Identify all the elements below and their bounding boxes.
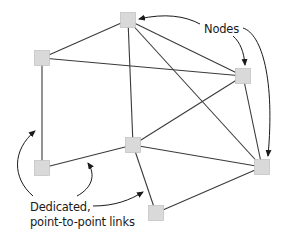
arrow-to-right-mid-node: [233, 36, 245, 65]
edge-top-lefttop: [42, 20, 128, 58]
arrow-to-center-bottom-link: [93, 192, 143, 206]
nodes-callout: Nodes: [139, 16, 270, 156]
arrow-to-right-bottom-node: [243, 28, 270, 156]
edges: [42, 20, 262, 213]
edge-center-bottom: [133, 145, 156, 213]
network-diagram: Nodes Dedicated, point-to-point links: [0, 0, 283, 243]
edge-top-rightbottom: [128, 20, 262, 167]
node-left-bottom: [35, 161, 50, 176]
node-right-mid: [236, 69, 251, 84]
node-bottom: [149, 206, 164, 221]
links-callout: Dedicated, point-to-point links: [17, 131, 143, 229]
edge-center-rightbottom: [133, 145, 262, 167]
node-left-top: [35, 51, 50, 66]
links-label-line2: point-to-point links: [30, 215, 135, 229]
arrow-to-left-vertical-link: [17, 131, 35, 196]
arrow-to-bottom-left-link: [77, 163, 92, 196]
edge-lefttop-rightmid: [42, 58, 243, 76]
nodes-label: Nodes: [204, 22, 239, 36]
edge-top-center: [128, 20, 133, 145]
edge-rightmid-rightbottom: [243, 76, 262, 167]
links-label-line1: Dedicated,: [30, 200, 90, 214]
nodes: [35, 13, 270, 221]
edge-bottom-rightbottom: [156, 167, 262, 213]
arrow-to-top-node: [139, 16, 200, 24]
node-top: [121, 13, 136, 28]
node-right-bottom: [255, 160, 270, 175]
edge-leftbottom-center: [42, 145, 133, 168]
node-center: [126, 138, 141, 153]
